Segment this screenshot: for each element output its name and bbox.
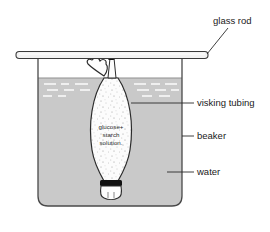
label-glass-rod: glass rod [213, 15, 252, 26]
label-visking-tubing: visking tubing [197, 97, 255, 108]
osmosis-experiment-diagram: glucose+ starch solution. glass rod visk… [0, 0, 270, 232]
tubing-contents-line-1: glucose+ [99, 123, 124, 130]
tubing-bottom-tie [100, 180, 122, 186]
tubing-bottom-tail [101, 186, 122, 200]
labels: glass rod visking tubing beaker water [196, 15, 255, 177]
glass-rod [16, 52, 208, 59]
leader-glass-rod [207, 28, 228, 54]
tubing-contents-line-2: starch [103, 131, 120, 138]
tubing-contents-line-3: solution. [99, 139, 122, 146]
label-water: water [196, 166, 220, 177]
label-beaker: beaker [197, 130, 226, 141]
tubing-neck [108, 58, 116, 78]
diagram-canvas: glucose+ starch solution. glass rod visk… [0, 0, 270, 232]
glass-rod-body [16, 52, 208, 59]
